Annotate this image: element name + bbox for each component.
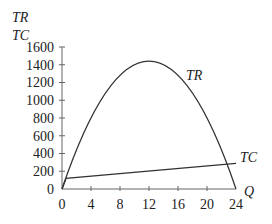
- x-tick-label: 16: [171, 197, 185, 212]
- y-axis-title-tr: TR: [12, 10, 29, 25]
- y-tick-label: 800: [33, 111, 54, 126]
- x-axis-title: Q: [244, 184, 254, 199]
- x-tick-label: 12: [142, 197, 156, 212]
- x-tick-label: 24: [229, 197, 243, 212]
- x-tick-label: 0: [59, 197, 66, 212]
- y-tick-label: 1000: [26, 93, 54, 108]
- tc-series-label: TC: [240, 150, 258, 165]
- y-tick-label: 200: [33, 164, 54, 179]
- x-tick-label: 20: [200, 197, 214, 212]
- x-tick-label: 8: [117, 197, 124, 212]
- tr-curve: [62, 61, 236, 189]
- y-tick-label: 600: [33, 129, 54, 144]
- y-tick-labels: 1600 1400 1200 1000 800 600 400 200 0: [26, 40, 54, 197]
- y-tick-label: 0: [47, 182, 54, 197]
- y-tick-label: 1600: [26, 40, 54, 55]
- chart: 1600 1400 1200 1000 800 600 400 200 0 0 …: [0, 0, 272, 224]
- y-tick-label: 1200: [26, 75, 54, 90]
- x-tick-labels: 0 4 8 12 16 20 24: [59, 197, 244, 212]
- y-tick-label: 1400: [26, 58, 54, 73]
- y-tick-label: 400: [33, 146, 54, 161]
- x-tick-label: 4: [88, 197, 95, 212]
- y-axis-title-tc: TC: [12, 28, 30, 43]
- tr-series-label: TR: [186, 68, 203, 83]
- tc-line: [62, 163, 236, 189]
